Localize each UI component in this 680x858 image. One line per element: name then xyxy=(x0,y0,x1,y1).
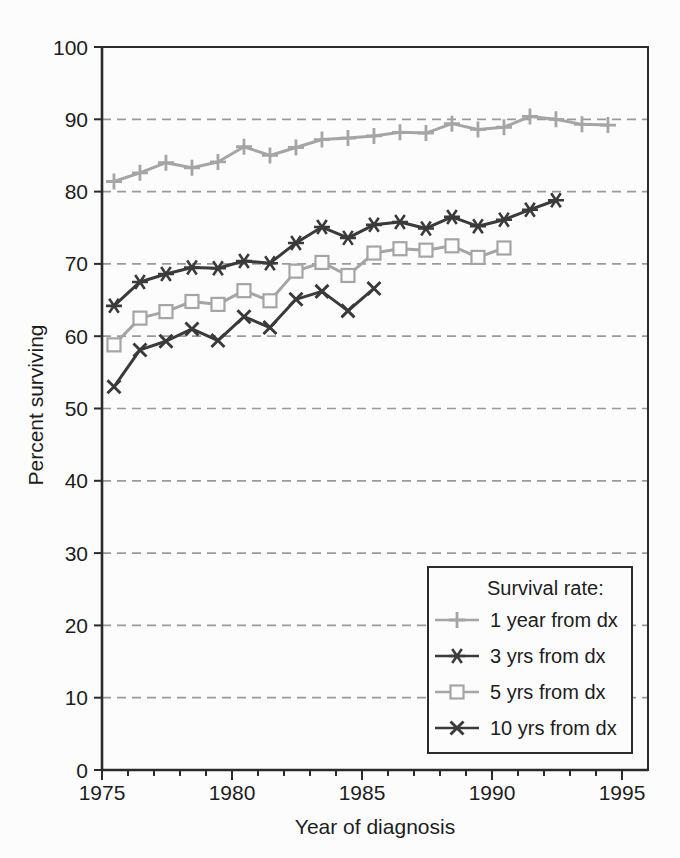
x-axis-ticks: 19751980198519901995 xyxy=(79,770,646,804)
legend-item-5-yrs-from-dx: 5 yrs from dx xyxy=(429,674,631,710)
legend-item-1-year-from-dx: 1 year from dx xyxy=(429,602,631,638)
legend-item-10-yrs-from-dx: 10 yrs from dx xyxy=(429,710,631,746)
series-3-yrs-from-dx xyxy=(106,193,564,313)
y-axis-ticks: 0102030405060708090100 xyxy=(53,36,102,782)
y-tick-label: 80 xyxy=(65,180,88,203)
y-tick-label: 30 xyxy=(65,542,88,565)
series-1-year-from-dx xyxy=(106,108,616,189)
y-tick-label: 40 xyxy=(65,469,88,492)
x-tick-label: 1985 xyxy=(339,781,386,804)
legend-item-3-yrs-from-dx: 3 yrs from dx xyxy=(429,638,631,674)
y-tick-label: 70 xyxy=(65,252,88,275)
chart-figure: 0102030405060708090100197519801985199019… xyxy=(0,0,680,858)
series-10-yrs-from-dx xyxy=(107,282,380,393)
y-tick-label: 0 xyxy=(76,759,88,782)
legend-title: Survival rate: xyxy=(487,576,631,600)
legend: Survival rate: 1 year from dx 3 yrs from… xyxy=(427,566,633,754)
x-tick-label: 1975 xyxy=(79,781,126,804)
x-tick-label: 1980 xyxy=(209,781,256,804)
y-tick-label: 20 xyxy=(65,614,88,637)
y-tick-label: 90 xyxy=(65,108,88,131)
y-tick-label: 50 xyxy=(65,397,88,420)
y-tick-label: 100 xyxy=(53,36,88,59)
legend-sample-x-marker-icon xyxy=(433,718,481,738)
legend-item-label: 1 year from dx xyxy=(490,609,618,632)
y-tick-label: 10 xyxy=(65,686,88,709)
legend-sample-plus-marker-icon xyxy=(433,610,481,630)
x-axis-title: Year of diagnosis xyxy=(295,815,455,839)
legend-sample-asterisk-marker-icon xyxy=(433,646,481,666)
y-axis-title: Percent surviving xyxy=(24,324,48,485)
legend-item-label: 3 yrs from dx xyxy=(490,645,606,668)
x-tick-label: 1990 xyxy=(469,781,516,804)
legend-item-label: 10 yrs from dx xyxy=(490,717,617,740)
legend-item-label: 5 yrs from dx xyxy=(490,681,606,704)
y-tick-label: 60 xyxy=(65,325,88,348)
legend-sample-square-marker-icon xyxy=(433,682,481,702)
x-tick-label: 1995 xyxy=(599,781,646,804)
